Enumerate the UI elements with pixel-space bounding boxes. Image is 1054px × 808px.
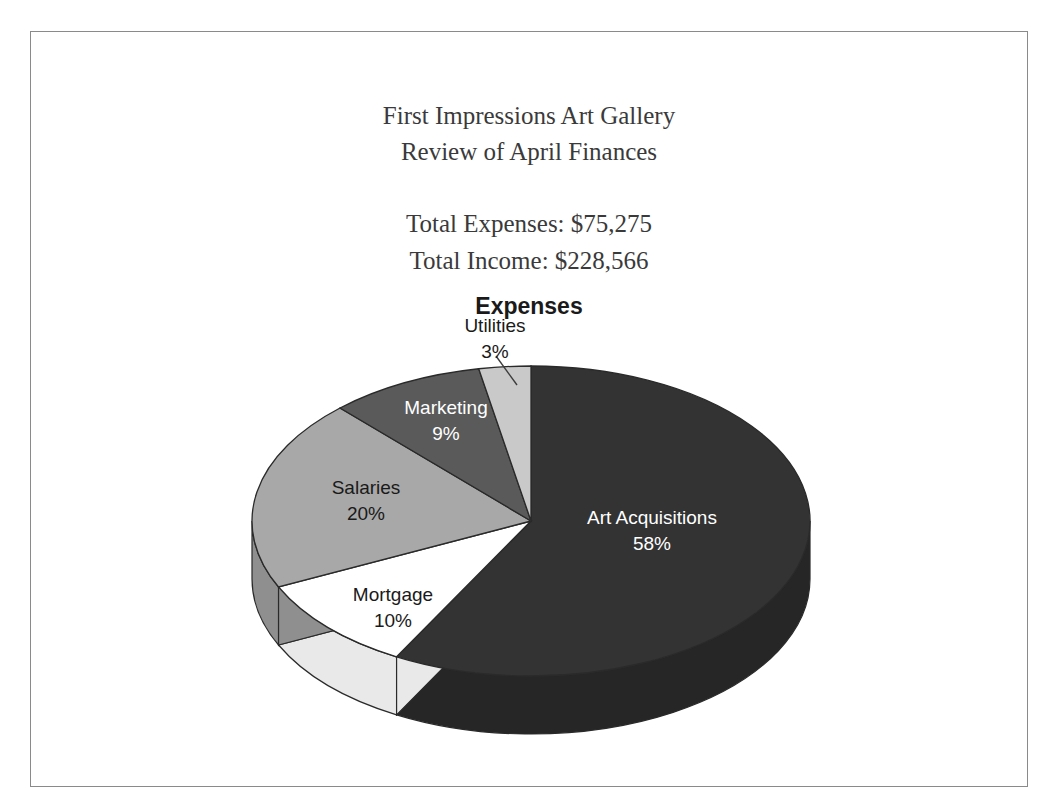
pie-label-art-acquisitions: Art Acquisitions — [587, 507, 717, 528]
pie-value-art-acquisitions: 58% — [633, 533, 671, 554]
pie-label-marketing: Marketing — [404, 397, 487, 418]
pie-label-salaries: Salaries — [332, 477, 401, 498]
pie-value-marketing: 9% — [432, 423, 460, 444]
pie-top-faces — [252, 366, 810, 676]
chart-page: First Impressions Art Gallery Review of … — [0, 0, 1054, 808]
pie-value-mortgage: 10% — [374, 610, 412, 631]
pie-value-salaries: 20% — [347, 503, 385, 524]
pie-label-utilities: Utilities — [464, 315, 525, 336]
pie-value-utilities: 3% — [481, 341, 509, 362]
pie-chart: Art Acquisitions58%Mortgage10%Salaries20… — [0, 0, 1054, 808]
pie-label-mortgage: Mortgage — [353, 584, 433, 605]
